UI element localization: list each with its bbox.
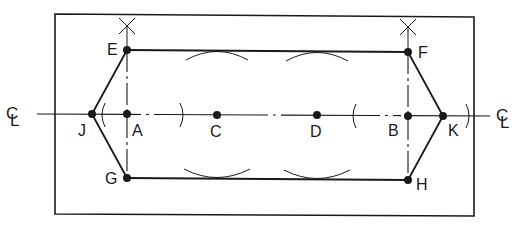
edge-je [92, 50, 127, 114]
edge-ef [127, 50, 408, 52]
label-f: F [418, 44, 428, 61]
point-h [404, 176, 412, 184]
label-k: K [448, 122, 459, 139]
centerline-arc [353, 104, 356, 128]
label-b: B [388, 122, 399, 139]
label-a: A [132, 122, 143, 139]
point-labels: EFGHJKABCD [78, 41, 459, 193]
label-d: D [310, 123, 322, 140]
intersection-x-mark [400, 19, 416, 51]
construction-lines [102, 18, 469, 180]
point-a [123, 110, 131, 118]
centerline-symbol-right: CL [496, 106, 509, 132]
point-g [123, 174, 131, 182]
centerline-symbol-l: L [500, 113, 509, 132]
point-k [439, 112, 447, 120]
label-j: J [78, 122, 86, 139]
construction-arc [184, 169, 250, 178]
label-h: H [416, 176, 428, 193]
edge-fk [408, 52, 443, 116]
point-c [213, 111, 221, 119]
point-j [88, 110, 96, 118]
point-d [313, 111, 321, 119]
construction-arc [286, 53, 348, 62]
edge-kh [408, 116, 443, 180]
intersection-x-mark [119, 18, 135, 50]
label-c: C [210, 123, 222, 140]
centerline-symbol-left: CL [6, 104, 19, 130]
centerline-symbol-l: L [10, 111, 19, 130]
construction-arc [284, 170, 350, 179]
construction-arc [186, 52, 248, 61]
centerline-arc [102, 103, 105, 127]
label-e: E [107, 41, 118, 58]
hexagon-construction-diagram: CLCL EFGHJKABCD [0, 0, 529, 237]
label-g: G [105, 170, 117, 187]
point-e [123, 46, 131, 54]
point-f [404, 48, 412, 56]
point-b [404, 112, 412, 120]
edge-hg [127, 178, 408, 180]
edge-gj [92, 114, 127, 178]
